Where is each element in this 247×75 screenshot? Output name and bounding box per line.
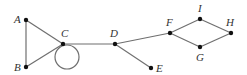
- node-b: [24, 65, 28, 69]
- node-d: [113, 42, 117, 46]
- edge-f-i: [170, 19, 200, 33]
- node-label-g: G: [196, 51, 204, 63]
- graph-diagram: ABCDEFIHG: [0, 0, 247, 75]
- node-label-c: C: [61, 27, 69, 39]
- node-f: [168, 31, 172, 35]
- node-label-f: F: [165, 16, 173, 28]
- loops-group: [55, 45, 79, 69]
- node-i: [198, 17, 202, 21]
- edge-d-e: [115, 44, 151, 68]
- node-label-d: D: [109, 27, 118, 39]
- node-label-b: B: [14, 61, 21, 73]
- labels-group: ABCDEFIHG: [13, 2, 235, 74]
- loop-c: [55, 45, 79, 69]
- edge-h-g: [200, 33, 231, 47]
- edge-a-c: [26, 20, 63, 44]
- node-label-h: H: [225, 16, 235, 28]
- node-h: [229, 31, 233, 35]
- edge-d-f: [115, 33, 170, 44]
- node-label-e: E: [155, 62, 163, 74]
- node-g: [198, 45, 202, 49]
- node-e: [149, 66, 153, 70]
- node-a: [24, 18, 28, 22]
- node-c: [61, 42, 65, 46]
- edge-g-f: [170, 33, 200, 47]
- node-label-a: A: [13, 13, 21, 25]
- node-label-i: I: [197, 2, 203, 14]
